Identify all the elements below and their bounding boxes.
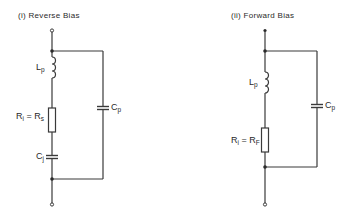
circuit-diagrams	[0, 0, 350, 216]
forward-bias-circuit	[262, 29, 324, 206]
capacitor-cj-label: Cj	[36, 151, 44, 162]
forward-bias-title: (ii) Forward Bias	[231, 11, 294, 20]
capacitor-cp-label: Cp	[325, 100, 335, 111]
inductor-lp-label: Lp	[36, 62, 45, 73]
resistor-rs-symbol	[49, 108, 56, 132]
capacitor-cp-label: Cp	[111, 102, 121, 113]
junction-node	[50, 49, 54, 53]
junction-node	[50, 177, 54, 181]
terminal-top	[263, 29, 266, 32]
inductor-lp-symbol	[265, 72, 269, 93]
inductor-lp-label: Lp	[249, 77, 258, 88]
resistor-rf-symbol	[262, 128, 269, 152]
resistor-ri-rs-label: Ri = Rs	[16, 111, 44, 122]
resistor-ri-rf-label: Ri = RF	[231, 135, 260, 146]
reverse-bias-circuit	[46, 29, 109, 206]
reverse-bias-title: (i) Reverse Bias	[18, 11, 80, 20]
junction-node	[263, 165, 267, 169]
junction-node	[263, 49, 267, 53]
terminal-bottom	[50, 203, 53, 206]
terminal-top	[50, 29, 53, 32]
terminal-bottom	[263, 203, 266, 206]
inductor-lp-symbol	[52, 57, 56, 78]
